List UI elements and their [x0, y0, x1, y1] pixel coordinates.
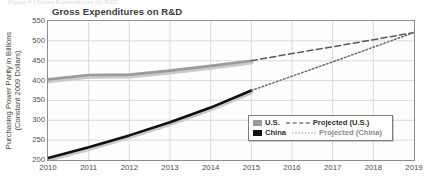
legend-label-projected-us: Projected (U.S.) [313, 118, 370, 127]
series-line [48, 61, 251, 80]
y-tick-label: 350 [1, 96, 45, 104]
x-axis-tick-labels: 2010201120122013201420152016201720182019 [47, 163, 415, 177]
legend-dashed-line-us-icon [286, 120, 310, 126]
x-tick-label: 2012 [109, 163, 149, 172]
x-tick-label: 2018 [353, 163, 393, 172]
legend-row: China Projected (China) [253, 128, 388, 137]
x-tick-label: 2010 [28, 163, 68, 172]
legend-swatch-us-icon [253, 120, 262, 126]
y-tick-label: 550 [1, 17, 45, 25]
chart-legend: U.S. Projected (U.S.) China Projected (C… [248, 115, 393, 141]
legend-row: U.S. Projected (U.S.) [253, 118, 388, 127]
x-tick-label: 2015 [231, 163, 271, 172]
chart-title: Gross Expenditures on R&D [52, 6, 182, 17]
legend-label-us: U.S. [265, 118, 280, 127]
chart-figure: Figure 4 | Gross Expenditures on R&D Gro… [0, 0, 430, 187]
x-tick-label: 2013 [150, 163, 190, 172]
y-tick-label: 300 [1, 116, 45, 124]
legend-label-china: China [265, 128, 286, 137]
x-tick-label: 2019 [394, 163, 430, 172]
y-tick-label: 500 [1, 37, 45, 45]
x-tick-label: 2014 [191, 163, 231, 172]
x-tick-label: 2011 [69, 163, 109, 172]
y-tick-label: 450 [1, 57, 45, 65]
y-axis-tick-labels: 200250300350400450500550 [0, 20, 45, 161]
legend-dotted-line-china-icon [292, 130, 316, 136]
x-tick-label: 2017 [313, 163, 353, 172]
x-tick-label: 2016 [272, 163, 312, 172]
legend-label-projected-china: Projected (China) [319, 128, 382, 137]
y-tick-label: 400 [1, 77, 45, 85]
y-tick-label: 250 [1, 136, 45, 144]
legend-swatch-china-icon [253, 130, 262, 136]
faint-top-caption: Figure 4 | Gross Expenditures on R&D [8, 0, 188, 5]
